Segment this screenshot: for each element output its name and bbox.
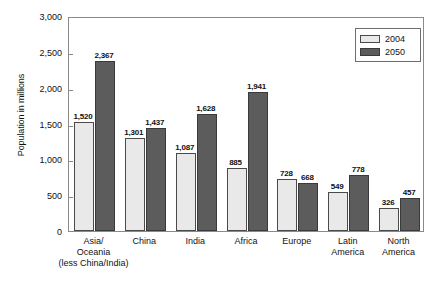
bar-value-label: 1,520 — [73, 112, 92, 121]
bar-value-label: 457 — [403, 188, 416, 197]
bar-value-label: 1,437 — [145, 118, 164, 127]
x-category-label-line: Oceania — [58, 247, 128, 258]
bar-value-label: 1,301 — [124, 128, 143, 137]
x-category-label: Africa — [234, 236, 257, 247]
bar-2004-4[interactable] — [277, 179, 297, 231]
x-category-label: LatinAmerica — [331, 236, 364, 258]
bar-2004-0[interactable] — [74, 122, 94, 231]
x-category-label: Asia/Oceania(less China/India) — [58, 236, 128, 269]
bar-value-label: 1,087 — [175, 143, 194, 152]
bar-value-label: 778 — [352, 165, 365, 174]
x-category-label-line: Africa — [234, 236, 257, 246]
legend-item-2050[interactable]: 2050 — [360, 45, 416, 58]
bar-value-label: 2,367 — [94, 51, 113, 60]
y-tick-label: 1,500 — [18, 120, 62, 130]
y-tick-label: 1,000 — [18, 155, 62, 165]
bar-value-label: 549 — [331, 182, 344, 191]
bar-2004-3[interactable] — [227, 168, 247, 231]
bar-2050-5[interactable] — [349, 175, 369, 231]
y-tick-label: 2,500 — [18, 48, 62, 58]
x-category-label-line: China — [133, 236, 157, 246]
legend-item-2004[interactable]: 2004 — [360, 32, 416, 45]
chart-legend: 2004 2050 — [355, 28, 421, 62]
legend-swatch-2050 — [360, 48, 380, 56]
x-category-label-line: America — [331, 247, 364, 258]
x-category-label: China — [133, 236, 157, 247]
legend-swatch-2004 — [360, 35, 380, 43]
legend-label-2050: 2050 — [385, 47, 405, 57]
bar-2004-2[interactable] — [176, 153, 196, 231]
x-category-label-line: (less China/India) — [58, 258, 128, 269]
y-tick-label: 2,000 — [18, 84, 62, 94]
bar-2050-4[interactable] — [298, 183, 318, 231]
bar-value-label: 326 — [382, 198, 395, 207]
population-bar-chart: Population in millions 05001,0001,5002,0… — [0, 0, 443, 285]
y-tick-mark — [69, 197, 73, 198]
x-category-label: NorthAmerica — [382, 236, 415, 258]
bar-value-label: 885 — [229, 158, 242, 167]
bar-2050-0[interactable] — [95, 61, 115, 231]
bar-2050-3[interactable] — [248, 92, 268, 231]
y-tick-mark — [69, 126, 73, 127]
x-category-label: India — [185, 236, 205, 247]
x-category-label-line: America — [382, 247, 415, 258]
y-tick-mark — [69, 54, 73, 55]
bar-2050-2[interactable] — [197, 114, 217, 231]
legend-label-2004: 2004 — [385, 34, 405, 44]
y-tick-mark — [69, 90, 73, 91]
x-category-label-line: Asia/ — [83, 236, 103, 246]
bar-2050-6[interactable] — [400, 198, 420, 231]
bar-value-label: 728 — [280, 169, 293, 178]
x-category-label-line: North — [388, 236, 410, 246]
y-tick-label: 3,000 — [18, 12, 62, 22]
y-tick-mark — [69, 161, 73, 162]
y-tick-label: 500 — [18, 191, 62, 201]
bar-value-label: 1,941 — [247, 82, 266, 91]
x-category-label-line: Latin — [338, 236, 358, 246]
bar-2050-1[interactable] — [146, 128, 166, 231]
y-tick-label: 0 — [18, 227, 62, 237]
x-category-label-line: India — [185, 236, 205, 246]
x-category-label: Europe — [282, 236, 311, 247]
x-category-label-line: Europe — [282, 236, 311, 246]
bar-value-label: 668 — [301, 173, 314, 182]
bar-2004-5[interactable] — [328, 192, 348, 231]
bar-2004-1[interactable] — [125, 138, 145, 231]
bar-value-label: 1,628 — [196, 104, 215, 113]
bar-2004-6[interactable] — [379, 208, 399, 231]
